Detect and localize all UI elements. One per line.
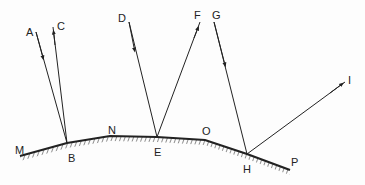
label-O: O (202, 125, 211, 137)
arrow-C (54, 32, 55, 45)
ray-incident-D (129, 22, 157, 137)
arrow-A (36, 32, 43, 58)
label-H: H (243, 163, 251, 175)
label-D: D (118, 12, 126, 24)
label-I: I (348, 74, 351, 86)
label-A: A (26, 26, 34, 38)
arrow-D (129, 22, 135, 50)
label-F: F (194, 9, 201, 21)
label-B: B (68, 152, 75, 164)
label-P: P (291, 156, 298, 168)
ray-reflected-F (157, 22, 200, 137)
label-E: E (154, 146, 161, 158)
arrow-G (214, 22, 225, 65)
label-C: C (57, 20, 65, 32)
reflection-diagram: A C D F G I M B N E O H P (0, 0, 365, 185)
label-M: M (15, 144, 24, 156)
arrow-F (194, 28, 198, 38)
label-G: G (212, 9, 221, 21)
label-N: N (108, 124, 116, 136)
arrow-I (330, 84, 342, 93)
diagram-canvas: A C D F G I M B N E O H P (0, 0, 365, 185)
